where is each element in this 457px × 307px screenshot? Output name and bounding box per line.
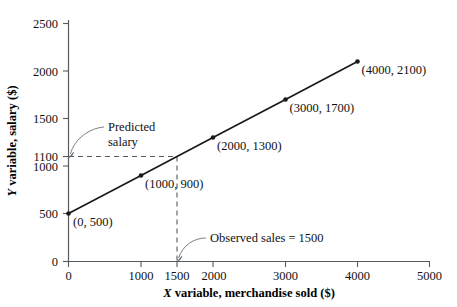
- data-point-label-2000-1300: (2000, 1300): [217, 139, 282, 153]
- x-tick-label-1500: 1500: [165, 269, 190, 283]
- y-tick-label-1500: 1500: [33, 112, 58, 126]
- x-tick-label-4000: 4000: [345, 269, 370, 283]
- predicted-salary-label-line2: salary: [108, 135, 139, 149]
- x-tick-label-1000: 1000: [129, 269, 154, 283]
- predicted-salary-label-line1: Predicted: [108, 120, 156, 134]
- y-tick-labels: 0 500 1000 1100 1500 2000 2500: [33, 17, 58, 269]
- x-tick-marks: [69, 262, 430, 268]
- x-tick-label-3000: 3000: [273, 269, 298, 283]
- x-tick-label-2000: 2000: [202, 269, 227, 283]
- data-point-2000-1300: [211, 135, 216, 140]
- observed-sales-leader-line: [179, 238, 207, 258]
- observed-sales-arrowhead: [177, 256, 182, 261]
- y-tick-label-2000: 2000: [33, 65, 58, 79]
- data-point-4000-2100: [355, 59, 360, 64]
- y-tick-label-500: 500: [39, 207, 58, 221]
- x-tick-labels: 0 1000 1500 2000 3000 4000 5000: [65, 269, 442, 283]
- data-point-label-1000-900: (1000, 900): [145, 177, 203, 191]
- y-tick-marks: [63, 24, 69, 262]
- data-point-label-4000-2100: (4000, 2100): [362, 63, 427, 77]
- chart-canvas: 0 500 1000 1100 1500 2000 2500 0 1000 15…: [0, 0, 457, 307]
- predicted-salary-leader-line: [71, 127, 105, 154]
- y-tick-label-2500: 2500: [33, 17, 58, 31]
- x-axis-title: X variable, merchandise sold ($): [162, 286, 335, 300]
- y-tick-label-1100: 1100: [33, 150, 58, 164]
- annotation-observed-sales: Observed sales = 1500: [177, 231, 323, 261]
- observed-sales-label: Observed sales = 1500: [210, 231, 324, 245]
- guide-lines: [69, 157, 177, 262]
- data-point-1000-900: [139, 173, 144, 178]
- scatter-regression-chart: 0 500 1000 1100 1500 2000 2500 0 1000 15…: [0, 0, 457, 307]
- y-tick-label-0: 0: [52, 255, 58, 269]
- annotation-predicted-salary: Predicted salary: [69, 120, 156, 158]
- y-axis-title: Y variable, salary ($): [5, 85, 19, 196]
- x-tick-label-0: 0: [65, 269, 71, 283]
- data-point-label-3000-1700: (3000, 1700): [290, 101, 355, 115]
- y-axis-title-text: variable, salary ($): [5, 85, 19, 188]
- x-tick-label-5000: 5000: [417, 269, 442, 283]
- x-axis-title-text: variable, merchandise sold ($): [172, 286, 335, 300]
- data-point-3000-1700: [283, 97, 288, 102]
- data-point-0-500: [66, 211, 71, 216]
- data-point-label-0-500: (0, 500): [73, 215, 113, 229]
